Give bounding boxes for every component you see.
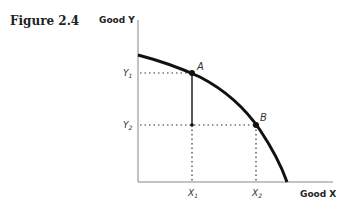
- y2-tick: Y2: [123, 120, 133, 131]
- point-b-label: B: [260, 112, 267, 123]
- x-axis-title: Good X: [300, 189, 336, 199]
- x1-y2-marker: [190, 123, 194, 127]
- x1-tick: X1: [187, 188, 198, 199]
- point-a-marker: [189, 70, 195, 76]
- ppf-chart: A B Good Y Good X Y1 Y2 X1 X2: [0, 0, 337, 201]
- x2-tick: X2: [251, 188, 262, 199]
- y1-tick: Y1: [123, 68, 132, 79]
- point-b-marker: [253, 122, 259, 128]
- y-axis-title: Good Y: [99, 15, 135, 25]
- point-a-label: A: [196, 61, 204, 72]
